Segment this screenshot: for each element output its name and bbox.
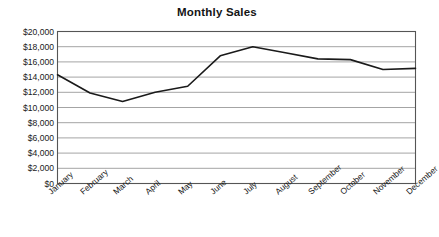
x-tick-label: January xyxy=(46,169,75,196)
x-tick-label: September xyxy=(306,162,343,196)
x-tick-label: November xyxy=(371,163,407,196)
x-tick-label: March xyxy=(111,173,135,196)
x-tick-label: July xyxy=(241,179,259,196)
x-tick-label: April xyxy=(143,178,162,197)
x-tick-label: August xyxy=(273,171,299,196)
x-tick-label: June xyxy=(208,177,228,196)
x-tick-label: February xyxy=(78,167,110,197)
x-tick-label: October xyxy=(338,169,367,196)
x-tick-label: December xyxy=(404,163,439,196)
x-tick-label: May xyxy=(176,178,195,196)
